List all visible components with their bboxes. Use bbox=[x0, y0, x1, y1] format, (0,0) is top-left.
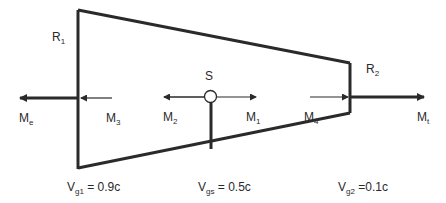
label-M3: M3 bbox=[106, 111, 120, 125]
source-circle bbox=[205, 91, 217, 103]
trapezoid-outline bbox=[78, 10, 350, 169]
label-R2: R2 bbox=[366, 62, 379, 76]
label-S: S bbox=[205, 69, 213, 83]
label-Me: Me bbox=[19, 111, 33, 125]
label-Mt: Mt bbox=[417, 110, 429, 124]
label-M1: M1 bbox=[246, 110, 260, 124]
label-Vg2: Vg2 =0.1c bbox=[338, 180, 388, 194]
diagram-canvas bbox=[0, 0, 446, 203]
label-Vgs: Vgs = 0.5c bbox=[198, 180, 251, 194]
label-R1: R1 bbox=[52, 30, 65, 44]
label-Vg1: Vg1 = 0.9c bbox=[67, 180, 120, 194]
label-M4: M4 bbox=[304, 110, 318, 124]
label-M2: M2 bbox=[163, 110, 177, 124]
top-edge bbox=[78, 10, 350, 63]
